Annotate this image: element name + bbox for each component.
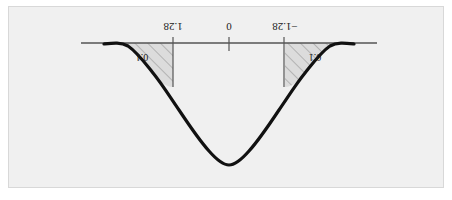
- right-tail-area-label: 0.1: [302, 52, 328, 63]
- left-tail-region: [104, 43, 173, 87]
- right-tail-region: [285, 43, 354, 87]
- plot-frame: 1.28 0 −1.28 0.1 0.1: [8, 6, 444, 188]
- figure-root: 1.28 0 −1.28 0.1 0.1: [0, 0, 452, 200]
- normal-distribution-plot: [9, 7, 444, 188]
- left-tail-area-label: 0.1: [129, 52, 155, 63]
- tick-label-pos-128: 1.28: [157, 21, 189, 33]
- tick-label-zero: 0: [215, 21, 243, 33]
- tick-label-neg-128: −1.28: [265, 21, 305, 33]
